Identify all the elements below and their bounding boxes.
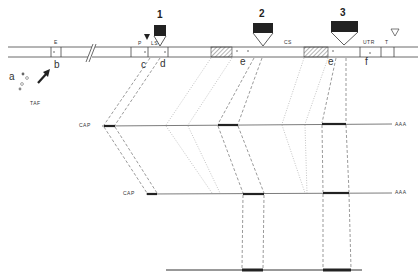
region-label-p: P	[138, 41, 142, 46]
transcript-2	[146, 193, 392, 194]
site-label-d: d	[160, 59, 166, 69]
site-label-f: f	[365, 57, 368, 67]
transcript-1	[102, 124, 392, 126]
site-label-a: a	[9, 72, 15, 82]
alignment-lines	[104, 58, 351, 269]
site-label-e2: e	[328, 57, 334, 67]
genomic-dna	[8, 44, 418, 62]
taf-factors	[19, 73, 29, 91]
region-label-cs: CS	[284, 40, 292, 45]
gene-structure-diagram	[0, 0, 420, 280]
transcript-1-polya: AAA	[395, 122, 407, 127]
insertion-3	[331, 21, 358, 45]
region-label-utr: UTR	[363, 40, 375, 45]
transcript-2-polya: AAA	[395, 190, 407, 195]
arrowhead-marker-icon	[144, 34, 150, 40]
region-label-ls: LS	[151, 41, 158, 46]
insertion-number-2: 2	[259, 9, 265, 19]
transcript-1-cap: CAP	[79, 123, 91, 128]
site-label-e1: e	[240, 57, 246, 67]
insertion-number-1: 1	[157, 10, 163, 20]
binding-arrow-icon	[38, 69, 50, 83]
region-label-t: T	[385, 40, 389, 45]
site-label-b: b	[54, 60, 60, 70]
site-label-c: c	[141, 60, 146, 70]
open-triangle-icon	[391, 29, 399, 36]
taf-label: TAF	[30, 101, 41, 106]
region-label-e: E	[54, 40, 58, 45]
insertion-2	[253, 23, 273, 46]
transcript-2-cap: CAP	[123, 191, 135, 196]
insertion-number-3: 3	[340, 8, 346, 18]
